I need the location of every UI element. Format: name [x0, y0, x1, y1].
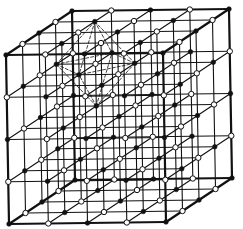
filled-atom — [140, 125, 145, 130]
filled-atom — [78, 157, 83, 162]
open-atom — [77, 114, 82, 119]
filled-atom — [133, 61, 138, 66]
open-atom — [98, 40, 103, 45]
open-atom — [134, 187, 139, 192]
filled-atom — [96, 188, 101, 193]
filled-atom — [190, 134, 195, 139]
filled-atom — [141, 209, 146, 214]
open-atom — [173, 145, 178, 150]
octahedron-edge — [56, 64, 79, 75]
open-atom — [123, 135, 128, 140]
filled-atom — [118, 199, 123, 204]
filled-atom — [21, 84, 26, 89]
filled-atom — [122, 94, 127, 99]
open-atom — [72, 135, 77, 140]
open-atom — [150, 134, 155, 139]
filled-atom — [63, 210, 68, 215]
open-atom — [21, 126, 26, 131]
open-atom — [54, 104, 59, 109]
filled-atom — [117, 114, 122, 119]
open-atom — [4, 95, 9, 100]
filled-atom — [71, 93, 76, 98]
open-atom — [83, 94, 88, 99]
open-atom — [189, 91, 194, 96]
open-atom — [190, 176, 195, 181]
filled-atom — [60, 41, 65, 46]
open-atom — [6, 179, 11, 184]
filled-atom — [213, 145, 218, 150]
filled-atom — [40, 200, 45, 205]
open-atom — [39, 157, 44, 162]
filled-atom — [148, 8, 153, 13]
open-atom — [227, 49, 232, 54]
filled-atom — [194, 29, 199, 34]
open-atom — [177, 39, 182, 44]
open-atom — [149, 50, 154, 55]
open-atom — [37, 73, 42, 78]
filled-atom — [85, 221, 90, 226]
open-atom — [94, 146, 99, 151]
open-atom — [124, 220, 129, 225]
filled-atom — [227, 7, 232, 12]
filled-atom — [134, 146, 139, 151]
open-atom — [60, 83, 65, 88]
open-atom — [46, 221, 51, 226]
open-atom — [154, 29, 159, 34]
filled-atom — [164, 220, 169, 225]
open-atom — [112, 177, 117, 182]
open-atom — [101, 209, 106, 214]
filled-atom — [211, 60, 216, 65]
crystal-lattice-diagram — [0, 0, 243, 229]
filled-atom — [4, 53, 9, 58]
open-atom — [121, 51, 126, 56]
open-atom — [138, 82, 143, 87]
open-atom — [110, 92, 115, 97]
filled-atom — [101, 168, 106, 173]
open-atom — [43, 52, 48, 57]
open-atom — [53, 19, 58, 24]
open-atom — [180, 208, 185, 213]
open-atom — [131, 18, 136, 23]
open-atom — [84, 178, 89, 183]
filled-atom — [45, 179, 50, 184]
open-atom — [23, 210, 28, 215]
open-atom — [117, 156, 122, 161]
open-atom — [70, 51, 75, 56]
filled-atom — [151, 177, 156, 182]
filled-atom — [161, 51, 166, 56]
open-atom — [140, 167, 145, 172]
filled-atom — [157, 156, 162, 161]
filled-atom — [61, 126, 66, 131]
open-atom — [93, 61, 98, 66]
filled-atom — [38, 115, 43, 120]
octahedron-edge — [96, 53, 112, 106]
open-atom — [187, 7, 192, 12]
open-atom — [210, 17, 215, 22]
filled-atom — [174, 187, 179, 192]
open-atom — [109, 8, 114, 13]
filled-atom — [111, 135, 116, 140]
filled-atom — [180, 167, 185, 172]
filled-atom — [84, 136, 89, 141]
filled-atom — [54, 62, 59, 67]
filled-atom — [100, 83, 105, 88]
filled-atom — [73, 178, 78, 183]
lattice-nodes — [4, 7, 235, 227]
open-atom — [163, 177, 168, 182]
filled-atom — [228, 91, 233, 96]
open-atom — [213, 186, 218, 191]
filled-atom — [173, 103, 178, 108]
open-atom — [44, 136, 49, 141]
filled-atom — [37, 31, 42, 36]
open-atom — [157, 198, 162, 203]
open-atom — [194, 71, 199, 76]
filled-atom — [93, 19, 98, 24]
open-atom — [79, 199, 84, 204]
filled-atom — [70, 9, 75, 14]
filled-atom — [115, 30, 120, 35]
filled-atom — [162, 135, 167, 140]
filled-atom — [94, 104, 99, 109]
open-atom — [133, 103, 138, 108]
open-atom — [61, 168, 66, 173]
filled-atom — [77, 73, 82, 78]
